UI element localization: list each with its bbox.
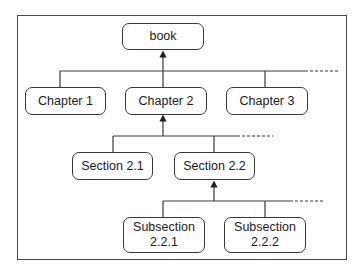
node-label: book — [149, 29, 176, 44]
node-label: Section 2.2 — [183, 159, 246, 174]
node-label: Chapter 1 — [38, 94, 93, 109]
node-label: Chapter 3 — [240, 94, 295, 109]
node-label-line2: 2.2.2 — [251, 235, 279, 250]
node-book: book — [122, 23, 204, 50]
node-label: Chapter 2 — [139, 94, 194, 109]
node-label-line2: 2.2.1 — [150, 235, 178, 250]
node-chapter-3: Chapter 3 — [226, 87, 308, 115]
node-subsection-2-2-2: Subsection 2.2.2 — [224, 217, 306, 253]
node-label-line1: Subsection — [234, 220, 296, 235]
node-label-line1: Subsection — [133, 220, 195, 235]
node-chapter-2: Chapter 2 — [125, 87, 207, 115]
node-section-2-2: Section 2.2 — [174, 152, 255, 180]
node-label: Section 2.1 — [81, 159, 144, 174]
node-section-2-1: Section 2.1 — [72, 152, 153, 180]
node-chapter-1: Chapter 1 — [25, 87, 106, 115]
node-subsection-2-2-1: Subsection 2.2.1 — [123, 217, 205, 253]
